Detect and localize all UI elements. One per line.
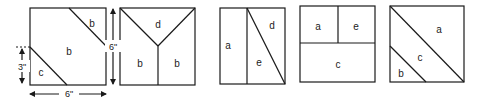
width-label: 6" — [65, 89, 73, 97]
piece-label: c — [336, 59, 341, 70]
piece-label: b — [174, 58, 180, 69]
piece-label: e — [353, 21, 359, 32]
piece-label: c — [39, 67, 44, 78]
piece-label: b — [89, 18, 95, 29]
piece-label: e — [256, 57, 262, 68]
piece-label: a — [436, 24, 442, 35]
piece-label: a — [315, 21, 321, 32]
piece-label: d — [155, 19, 161, 30]
piece-label: b — [398, 68, 404, 79]
height-label: 6" — [109, 42, 117, 52]
square-division-diagram: 6" 3" 6" b b c d b b d a e a e c a c b — [0, 0, 483, 97]
offset-label: 3" — [18, 62, 26, 72]
piece-label: b — [66, 46, 72, 57]
piece-label: a — [225, 40, 231, 51]
piece-label: c — [418, 52, 423, 63]
piece-label: b — [137, 58, 143, 69]
piece-label: d — [269, 20, 275, 31]
square-4 — [300, 6, 375, 82]
